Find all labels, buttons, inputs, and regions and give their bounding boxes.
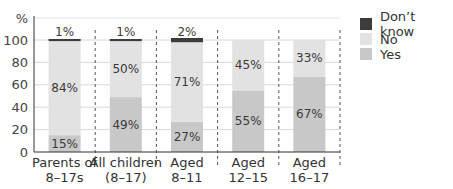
y-axis-unit: % xyxy=(16,11,28,26)
data-label-no: 84% xyxy=(51,81,78,95)
data-label-yes: 67% xyxy=(296,107,323,121)
data-label-no: 45% xyxy=(235,58,262,72)
legend-swatch-yes xyxy=(360,48,372,60)
x-category-label: 8–17s xyxy=(46,170,84,185)
y-tick-label: 40 xyxy=(11,100,28,115)
y-tick-label: 0 xyxy=(20,145,28,160)
x-category-label: All children xyxy=(90,155,162,170)
legend-swatch-no xyxy=(360,33,372,45)
data-label-yes: 49% xyxy=(112,118,139,132)
legend-item-yes: Yes xyxy=(360,46,401,62)
legend-item-no: No xyxy=(360,31,398,47)
x-category-label: 8–11 xyxy=(171,170,202,185)
data-label-yes: 27% xyxy=(174,130,201,144)
bar-segment-dont-know-cap xyxy=(110,39,142,40)
data-label-no: 71% xyxy=(174,75,201,89)
legend-label: No xyxy=(380,32,398,47)
x-category-label: Parents of xyxy=(32,155,97,170)
bar-segment-dont-know-cap xyxy=(49,39,81,40)
x-category-label: (8–17) xyxy=(105,170,146,185)
x-category-label: 12–15 xyxy=(228,170,268,185)
legend-swatch-dont-know xyxy=(360,18,372,30)
data-label-yes: 15% xyxy=(51,137,78,151)
data-label-dont-know: 1% xyxy=(116,25,135,39)
data-label-dont-know: 2% xyxy=(177,25,196,39)
x-category-label: Aged xyxy=(293,155,326,170)
y-tick-label: 80 xyxy=(11,55,28,70)
x-category-label: Aged xyxy=(231,155,264,170)
data-label-no: 33% xyxy=(296,51,323,65)
legend-label: Yes xyxy=(380,47,401,62)
y-tick-label: 20 xyxy=(11,122,28,137)
y-tick-label: 100 xyxy=(3,33,28,48)
y-tick-label: 60 xyxy=(11,77,28,92)
legend-item-dont-know: Don’t know xyxy=(360,16,453,32)
data-label-dont-know: 1% xyxy=(55,25,74,39)
data-label-yes: 55% xyxy=(235,114,262,128)
x-category-label: 16–17 xyxy=(290,170,330,185)
data-label-no: 50% xyxy=(112,62,139,76)
x-category-label: Aged xyxy=(170,155,203,170)
